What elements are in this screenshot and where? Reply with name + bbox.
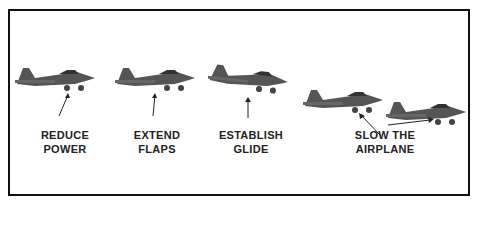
step-label-extend-flaps: EXTEND FLAPS [122, 128, 192, 156]
airplane-2 [115, 64, 197, 94]
arrow-1 [56, 92, 76, 118]
airplane-1 [15, 64, 97, 94]
arrow-5 [386, 116, 436, 128]
arrow-2 [150, 92, 160, 118]
arrow-3 [243, 96, 253, 120]
step-label-establish-glide: ESTABLISH GLIDE [213, 128, 289, 156]
step-label-reduce-power: REDUCE POWER [30, 128, 100, 156]
step-label-slow-the-airplane: SLOW THE AIRPLANE [345, 128, 425, 156]
